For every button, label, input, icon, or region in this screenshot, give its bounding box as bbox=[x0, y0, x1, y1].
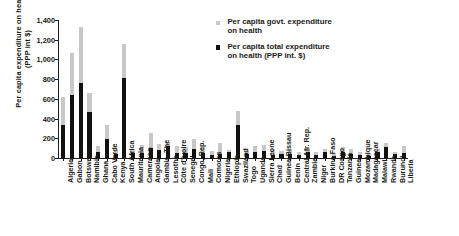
x-tick-label: Guinea bbox=[354, 159, 363, 183]
bar-item bbox=[61, 20, 65, 158]
bar-item bbox=[192, 20, 196, 158]
x-tick-label: Senegal bbox=[188, 155, 197, 183]
x-tick-label: Angola bbox=[153, 159, 162, 183]
bar-item bbox=[79, 20, 83, 158]
bar-segment-total-expenditure bbox=[70, 95, 74, 158]
x-tick-mark bbox=[255, 158, 256, 161]
bar-item bbox=[96, 20, 100, 158]
y-tick-label: 1,200 bbox=[37, 35, 56, 44]
x-tick-label: Algeria bbox=[66, 159, 75, 183]
x-tick-mark bbox=[212, 158, 213, 161]
legend-item: Per capita total expenditureon health (P… bbox=[216, 42, 456, 61]
bar-item bbox=[70, 20, 74, 158]
x-tick-label: Gambia, The bbox=[162, 140, 171, 183]
y-tick-label: 800 bbox=[43, 75, 55, 84]
x-tick-label: Tanzania bbox=[345, 153, 354, 183]
y-tick-label: 0 bbox=[51, 154, 55, 163]
bar-segment-total-expenditure bbox=[61, 125, 65, 158]
bar-item bbox=[114, 20, 118, 158]
legend-swatch bbox=[216, 21, 220, 25]
y-tick-label: 200 bbox=[43, 134, 55, 143]
y-tick-mark bbox=[55, 59, 58, 60]
x-tick-label: Niger bbox=[319, 165, 328, 183]
bar-segment-total-expenditure bbox=[236, 125, 240, 158]
bar-item bbox=[175, 20, 179, 158]
legend-item: Per capita govt. expenditureon health bbox=[216, 17, 456, 36]
x-tick-label: Zambia bbox=[310, 158, 319, 183]
y-tick-label: 1,400 bbox=[37, 16, 56, 25]
x-tick-label: Burkina Faso bbox=[328, 137, 337, 183]
x-tick-label: Benin bbox=[293, 163, 302, 183]
x-tick-label: Rwanda bbox=[389, 155, 398, 183]
chart-container: Per capita expenditure on health (PPP in… bbox=[0, 0, 459, 236]
x-tick-label: Congo, Rep. bbox=[197, 141, 206, 183]
bar-item bbox=[210, 20, 214, 158]
x-tick-label: Togo bbox=[249, 166, 258, 183]
y-tick-mark bbox=[55, 99, 58, 100]
bar-item bbox=[166, 20, 170, 158]
bar-item bbox=[183, 20, 187, 158]
x-tick-mark bbox=[299, 158, 300, 161]
bar-item bbox=[140, 20, 144, 158]
y-tick-label: 1,000 bbox=[37, 55, 56, 64]
bar-segment-total-expenditure bbox=[122, 78, 126, 158]
bar-item bbox=[201, 20, 205, 158]
x-tick-label: Ethiopia bbox=[232, 155, 241, 183]
x-tick-label: Liberia bbox=[406, 159, 415, 183]
y-axis-title: Per capita expenditure on health (PPP in… bbox=[14, 0, 32, 114]
y-tick-mark bbox=[55, 79, 58, 80]
bar-segment-total-expenditure bbox=[79, 83, 83, 158]
y-tick-mark bbox=[55, 158, 58, 159]
x-tick-label: Gabon bbox=[75, 160, 84, 183]
x-tick-label: Uganda bbox=[258, 157, 267, 183]
x-tick-label: Ghana bbox=[101, 161, 110, 183]
y-tick-label: 400 bbox=[43, 114, 55, 123]
x-tick-label: Guinea-Bissau bbox=[284, 133, 293, 183]
x-tick-mark bbox=[63, 158, 64, 161]
legend-swatch bbox=[216, 45, 220, 49]
bar-segment-total-expenditure bbox=[105, 139, 109, 158]
bar-item bbox=[105, 20, 109, 158]
bar-item bbox=[131, 20, 135, 158]
legend-label: Per capita govt. expenditureon health bbox=[227, 17, 331, 36]
x-tick-mark bbox=[325, 158, 326, 161]
chart-legend: Per capita govt. expenditureon healthPer… bbox=[216, 17, 456, 67]
x-tick-label: Malawi bbox=[380, 159, 389, 183]
legend-label: Per capita total expenditureon health (P… bbox=[227, 42, 329, 61]
bar-item bbox=[87, 20, 91, 158]
y-tick-mark bbox=[55, 40, 58, 41]
bar-segment-total-expenditure bbox=[384, 147, 388, 158]
y-tick-mark bbox=[55, 138, 58, 139]
x-tick-mark bbox=[281, 158, 282, 161]
x-tick-label: Namibia bbox=[92, 155, 101, 183]
x-tick-label: Mauritania bbox=[136, 147, 145, 183]
bar-item bbox=[149, 20, 153, 158]
x-tick-label: Nigeria bbox=[223, 159, 232, 183]
x-tick-label: South Africa bbox=[127, 141, 136, 183]
y-tick-mark bbox=[55, 119, 58, 120]
y-tick-mark bbox=[55, 20, 58, 21]
bar-item bbox=[122, 20, 126, 158]
bar-item bbox=[157, 20, 161, 158]
bar-segment-total-expenditure bbox=[157, 150, 161, 158]
y-tick-label: 600 bbox=[43, 94, 55, 103]
